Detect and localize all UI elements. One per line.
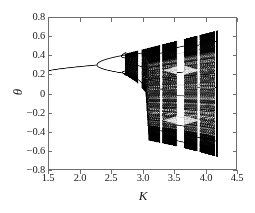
y-tick: [48, 74, 52, 75]
x-tick-top: [48, 18, 49, 22]
y-tick-label: 0.6: [1, 31, 45, 42]
y-tick-right: [233, 94, 237, 95]
x-tick-top: [143, 18, 144, 22]
x-tick-label: 4.5: [217, 172, 255, 183]
y-tick: [48, 55, 52, 56]
x-tick-top: [80, 18, 81, 22]
y-tick: [48, 36, 52, 37]
x-tick-top: [206, 18, 207, 22]
y-tick: [48, 132, 52, 133]
x-tick-top: [237, 18, 238, 22]
y-tick-label: −0.6: [1, 146, 45, 157]
y-tick: [48, 151, 52, 152]
y-tick: [48, 94, 52, 95]
bifurcation-plot-canvas: [49, 18, 236, 169]
y-tick-label: −0.4: [1, 127, 45, 138]
y-tick: [48, 113, 52, 114]
y-tick-right: [233, 151, 237, 152]
y-tick-right: [233, 113, 237, 114]
y-tick-label: −0.2: [1, 108, 45, 119]
plot-area: [48, 17, 237, 170]
y-tick-label: 0.8: [1, 12, 45, 23]
y-tick-right: [233, 36, 237, 37]
y-tick-right: [233, 132, 237, 133]
y-tick-right: [233, 74, 237, 75]
y-tick-label: 0.4: [1, 50, 45, 61]
y-tick-label: 0.2: [1, 69, 45, 80]
x-axis-title: K: [123, 188, 163, 204]
x-tick-top: [174, 18, 175, 22]
y-axis-title: θ: [10, 81, 26, 103]
x-tick-top: [111, 18, 112, 22]
bifurcation-figure: 0.80.60.40.20−0.2−0.4−0.6−0.8 1.52.02.53…: [0, 0, 255, 213]
y-tick-right: [233, 55, 237, 56]
